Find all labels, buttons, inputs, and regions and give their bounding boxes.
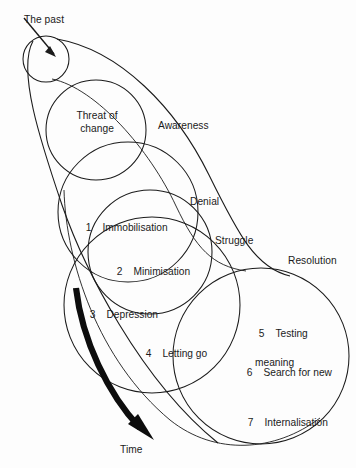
label-time-axis: Time (120, 444, 142, 456)
stage-4-label: Letting go (162, 348, 207, 359)
the-past-pointer-head (45, 46, 56, 57)
stage-2-label: Minimisation (133, 266, 190, 277)
label-struggle: Struggle (215, 235, 253, 247)
label-threat-of-change-line2: change (60, 123, 134, 135)
stage-3-number: 3 (90, 309, 96, 320)
stage-4-number: 4 (146, 348, 152, 359)
stage-1-label: Immobilisation (102, 222, 167, 233)
circle-the-past (23, 36, 69, 82)
stage-item-7: 7Internalisation (230, 394, 328, 448)
stage-6-label: Search for new (263, 367, 332, 378)
stage-item-4: 4Letting go (128, 325, 207, 379)
stage-5-number: 5 (259, 328, 265, 339)
stage-1-number: 1 (86, 222, 92, 233)
transition-curve-diagram: The past Threat of change Awareness Deni… (0, 0, 356, 468)
label-the-past: The past (24, 14, 64, 26)
label-denial: Denial (190, 196, 219, 208)
stage-item-6-line2: meaning (255, 357, 294, 368)
stage-5-label: Testing (275, 328, 307, 339)
stage-3-label: Depression (106, 309, 158, 320)
stage-6-number: 6 (247, 367, 253, 378)
stage-7-number: 7 (248, 417, 254, 428)
stage-item-6: 6Search for new (229, 344, 332, 398)
label-awareness: Awareness (158, 120, 209, 132)
stage-2-number: 2 (117, 266, 123, 277)
label-threat-of-change-line1: Threat of (60, 110, 134, 122)
label-resolution: Resolution (288, 255, 337, 267)
stage-7-label: Internalisation (264, 417, 327, 428)
